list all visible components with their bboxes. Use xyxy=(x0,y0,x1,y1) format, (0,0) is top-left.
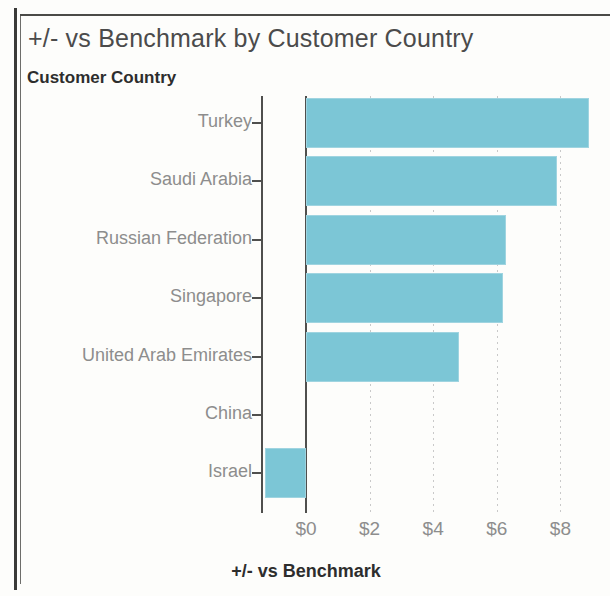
x-tick-label-4: $8 xyxy=(550,518,571,540)
y-tick-mark-6 xyxy=(252,472,262,474)
y-tick-label-russian-federation: Russian Federation xyxy=(2,228,252,249)
y-tick-label-united-arab-emirates: United Arab Emirates xyxy=(2,345,252,366)
y-tick-label-china: China xyxy=(2,403,252,424)
bar-singapore[interactable] xyxy=(306,273,503,323)
x-tick-label-3: $6 xyxy=(486,518,507,540)
y-tick-label-saudi-arabia: Saudi Arabia xyxy=(2,169,252,190)
x-axis-title: +/- vs Benchmark xyxy=(231,561,381,582)
y-tick-mark-0 xyxy=(252,122,262,124)
y-tick-label-singapore: Singapore xyxy=(2,286,252,307)
y-tick-mark-5 xyxy=(252,414,262,416)
plot-area: TurkeySaudi ArabiaRussian FederationSing… xyxy=(0,0,610,596)
y-tick-label-turkey: Turkey xyxy=(2,111,252,132)
bar-united-arab-emirates[interactable] xyxy=(306,332,459,382)
y-tick-mark-1 xyxy=(252,180,262,182)
bar-turkey[interactable] xyxy=(306,98,589,148)
gridline-4 xyxy=(560,96,561,513)
x-tick-label-2: $4 xyxy=(423,518,444,540)
bar-russian-federation[interactable] xyxy=(306,215,506,265)
chart-figure: +/- vs Benchmark by Customer Country Cus… xyxy=(0,0,610,596)
y-tick-mark-3 xyxy=(252,297,262,299)
bar-saudi-arabia[interactable] xyxy=(306,156,557,206)
x-tick-label-1: $2 xyxy=(359,518,380,540)
y-tick-mark-2 xyxy=(252,239,262,241)
y-axis-spine xyxy=(261,96,263,513)
x-tick-label-0: $0 xyxy=(295,518,316,540)
y-tick-mark-4 xyxy=(252,356,262,358)
y-tick-label-israel: Israel xyxy=(2,461,252,482)
bar-israel[interactable] xyxy=(265,448,306,498)
